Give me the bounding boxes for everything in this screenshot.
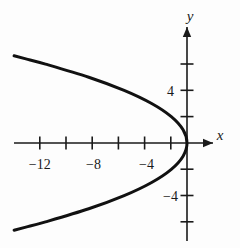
y-axis-label: y bbox=[185, 8, 194, 24]
x-axis-label: x bbox=[216, 127, 224, 143]
figure-background bbox=[0, 0, 240, 248]
y-tick-label-4: 4 bbox=[167, 84, 174, 99]
plot-canvas: x y −12 −8 −4 4 −4 bbox=[0, 0, 240, 248]
parabola-figure: x y −12 −8 −4 4 −4 bbox=[0, 0, 240, 248]
y-tick-label--4: −4 bbox=[163, 189, 178, 204]
x-tick-label--8: −8 bbox=[86, 157, 101, 172]
x-tick-label--4: −4 bbox=[139, 157, 154, 172]
x-tick-label--12: −12 bbox=[29, 157, 51, 172]
